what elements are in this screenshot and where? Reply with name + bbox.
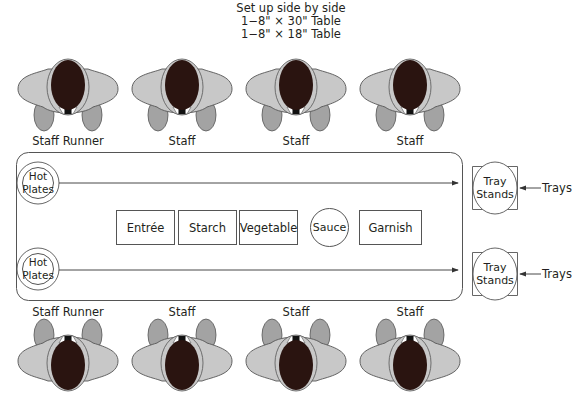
staff-figure-top-1 — [18, 59, 118, 131]
station-sauce: Sauce — [310, 208, 349, 247]
staff-label-bottom-1: Staff Runner — [18, 305, 118, 319]
station-garnish: Garnish — [359, 210, 422, 245]
staff-label-bottom-3: Staff — [246, 305, 346, 319]
trays-label-top: Trays — [542, 181, 572, 195]
station-starch: Starch — [178, 210, 237, 245]
staff-figure-top-3 — [246, 59, 346, 131]
tray-stands-bottom: TrayStands — [473, 261, 517, 287]
staff-figure-bottom-2 — [132, 319, 232, 391]
staff-label-top-2: Staff — [132, 134, 232, 148]
station-entree: Entrée — [116, 210, 175, 245]
staff-label-top-1: Staff Runner — [18, 134, 118, 148]
staff-figure-bottom-4 — [360, 319, 460, 391]
tray-stands-top: TrayStands — [473, 175, 517, 201]
diagram-canvas — [0, 0, 582, 410]
trays-label-bottom: Trays — [542, 267, 572, 281]
station-vegetable: Vegetable — [239, 210, 298, 245]
staff-label-bottom-4: Staff — [360, 305, 460, 319]
hot-plates-bottom: HotPlates — [22, 253, 54, 285]
staff-label-top-3: Staff — [246, 134, 346, 148]
staff-figure-top-4 — [360, 59, 460, 131]
hot-plates-top: HotPlates — [22, 167, 54, 199]
staff-figure-bottom-3 — [246, 319, 346, 391]
staff-label-bottom-2: Staff — [132, 305, 232, 319]
staff-figure-bottom-1 — [18, 319, 118, 391]
staff-label-top-4: Staff — [360, 134, 460, 148]
staff-figure-top-2 — [132, 59, 232, 131]
